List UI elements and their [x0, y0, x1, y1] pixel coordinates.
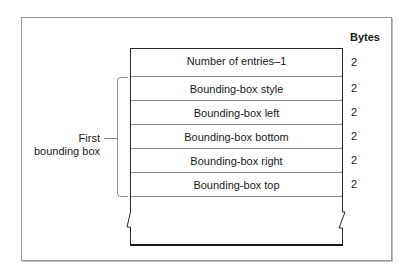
- field-label: Number of entries–1: [187, 55, 287, 67]
- byte-count: 2: [351, 82, 357, 94]
- field-row: Bounding-box left: [130, 101, 343, 125]
- field-label: Bounding-box right: [190, 155, 282, 167]
- byte-count: 2: [351, 106, 357, 118]
- byte-count: 2: [351, 56, 357, 68]
- bracket-label: First bounding box: [30, 132, 100, 158]
- field-label: Bounding-box left: [194, 107, 280, 119]
- field-row: Number of entries–1: [130, 49, 343, 73]
- bracket-label-line2: bounding box: [30, 145, 100, 158]
- field-label: Bounding-box top: [193, 179, 279, 191]
- field-row: Bounding-box bottom: [130, 125, 343, 149]
- bracket-label-line1: First: [30, 132, 100, 145]
- byte-count: 2: [351, 178, 357, 190]
- field-row: Bounding-box right: [130, 149, 343, 173]
- field-label: Bounding-box style: [190, 83, 284, 95]
- field-row: Bounding-box style: [130, 77, 343, 101]
- byte-count: 2: [351, 154, 357, 166]
- field-row: Bounding-box top: [130, 173, 343, 197]
- byte-count: 2: [351, 130, 357, 142]
- field-label: Bounding-box bottom: [184, 131, 289, 143]
